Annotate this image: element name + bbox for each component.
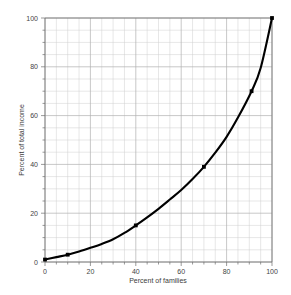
x-axis-title: Percent of families bbox=[129, 277, 187, 284]
data-point-marker bbox=[250, 89, 254, 93]
y-axis-title: Percent of total income bbox=[18, 104, 25, 176]
data-point-marker bbox=[134, 224, 138, 228]
y-tick-label: 0 bbox=[34, 259, 38, 266]
grid-minor-lines bbox=[45, 18, 272, 262]
data-point-marker bbox=[270, 16, 274, 20]
y-tick-label: 80 bbox=[30, 63, 38, 70]
y-tick-label: 40 bbox=[30, 161, 38, 168]
lorenz-curve-chart: 020406080100 020406080100 Percent of fam… bbox=[0, 0, 291, 295]
x-tick-label: 0 bbox=[43, 268, 47, 275]
x-tick-label: 60 bbox=[177, 268, 185, 275]
data-point-marker bbox=[202, 165, 206, 169]
x-tick-label: 100 bbox=[266, 268, 278, 275]
data-point-marker bbox=[43, 258, 47, 262]
y-tick-label: 20 bbox=[30, 210, 38, 217]
x-tick-label: 20 bbox=[87, 268, 95, 275]
data-point-marker bbox=[66, 253, 70, 257]
y-tick-label: 60 bbox=[30, 112, 38, 119]
y-tick-label: 100 bbox=[26, 15, 38, 22]
x-tick-label: 40 bbox=[132, 268, 140, 275]
x-tick-label: 80 bbox=[223, 268, 231, 275]
